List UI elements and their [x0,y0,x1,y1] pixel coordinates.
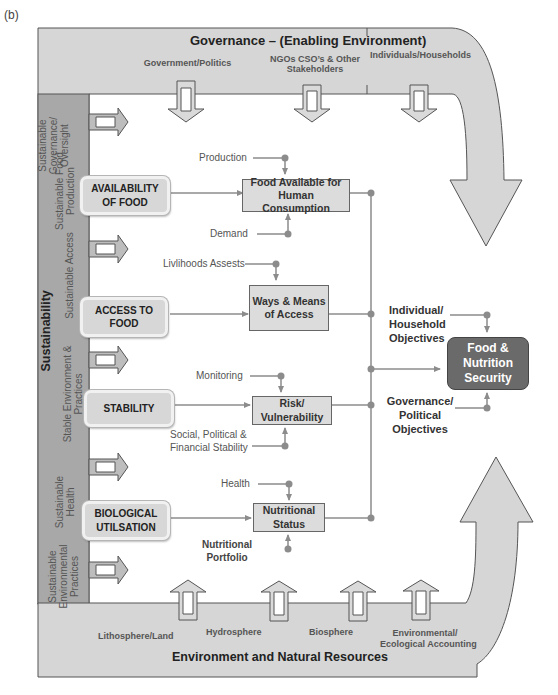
outcome-label: Human Consumption [243,189,349,215]
pillar-label: FOOD [95,317,153,331]
goal-label: Food & [463,341,513,356]
outcome-label: of Access [252,308,325,321]
label-line: Social, Political & [170,428,248,441]
input-production: Production [199,152,247,164]
goal-label: Nutrition [463,356,513,371]
pillar-label: BIOLOGICAL [95,507,158,521]
sidebar-section-health: Sustainable Health [54,467,76,537]
pillar-label: OF FOOD [91,196,158,210]
pillar-access[interactable]: ACCESS TOFOOD [80,297,168,337]
sidebar-section-access: Sustainable Access [64,231,75,321]
pillar-biological-utilisation[interactable]: BIOLOGICALUTILSATION [82,501,170,540]
goal-food-nutrition-security[interactable]: Food &NutritionSecurity [447,337,529,390]
environment-title: Environment and Natural Resources [150,650,410,664]
label-line: Governance/ [386,395,454,409]
connectors [170,158,487,549]
governance-title: Governance – (Enabling Environment) [190,34,390,49]
label-line: Objectives [389,332,446,346]
label-line: Health [65,467,76,537]
input-health: Health [221,478,250,490]
pillar-label: AVAILABILITY [91,182,158,196]
label-line: Environmental/ [380,628,470,639]
objective-individual-household: Individual/ Household Objectives [389,304,446,345]
outcome-label: Nutritional [263,504,316,517]
outcome-label: Ways & Means [252,295,325,308]
outcome-label: Food Available for [243,176,349,189]
input-livelihoods-assets: Livlihoods Assests [163,258,245,270]
sidebar-section-stable-environment: Stable Environment & Practices [62,334,84,454]
figure-label: (b) [4,9,19,23]
environment-item-biosphere: Biosphere [309,627,353,637]
label-line: Individual/ [389,304,446,318]
label-line: Sustainable [47,537,58,617]
outcome-label: Vulnerability [261,411,324,424]
environment-item-hydrosphere: Hydrosphere [206,627,262,637]
ngo-line-1: NGOs CSO’s & Other [255,54,375,64]
pillar-label: STABILITY [104,402,155,416]
label-line: Financial Stability [170,441,248,454]
label-line: Sustainable [37,114,48,178]
label-line: Ecological Accounting [380,639,470,650]
label-line: Practices [69,537,80,617]
label-line: Nutritional [197,538,257,551]
pillar-label: UTILSATION [95,521,158,535]
label-line: Production [65,146,76,236]
label-line: Stable Environment & [62,334,73,454]
label-line: Practices [73,334,84,454]
governance-item-ngos: NGOs CSO’s & Other Stakeholders [255,54,375,75]
outcome-label: Status [263,518,316,531]
input-demand: Demand [210,228,248,240]
sidebar-section-food-production: Sustainable Food Production [54,146,76,236]
ngo-line-2: Stakeholders [255,64,375,74]
pillar-label: ACCESS TO [95,304,153,318]
objective-governance-political: Governance/ Political Objectives [386,395,454,436]
label-line: Portfolio [197,551,257,564]
governance-item-individuals: Individuals/Households [370,50,470,60]
label-line: Political [386,409,454,423]
outcome-food-available[interactable]: Food Available forHuman Consumption [242,179,350,212]
environment-item-lithosphere: Lithosphere/Land [98,631,174,641]
outcome-risk-vulnerability[interactable]: Risk/Vulnerability [252,396,332,425]
governance-item-government: Government/Politics [120,58,255,68]
outcome-nutritional-status[interactable]: NutritionalStatus [253,503,325,532]
input-monitoring: Monitoring [196,370,243,382]
input-social-political-financial: Social, Political & Financial Stability [170,428,248,454]
pillar-availability[interactable]: AVAILABILITYOF FOOD [80,176,170,215]
goal-label: Security [463,371,513,386]
label-line: Sustainable [54,467,65,537]
label-line: Sustainable Access [64,231,75,321]
outcome-ways-means-access[interactable]: Ways & Meansof Access [249,285,329,331]
label-line: Sustainable Food [54,146,65,236]
label-line: Objectives [386,423,454,437]
environment-item-ecological-accounting: Environmental/ Ecological Accounting [380,628,470,650]
sustainability-title: Sustainability [40,276,54,386]
label-line: Environmental [58,537,69,617]
outcome-label: Risk/ [261,397,324,410]
label-line: Household [389,318,446,332]
pillar-stability[interactable]: STABILITY [84,390,174,427]
input-nutritional-portfolio: Nutritional Portfolio [197,538,257,564]
sidebar-section-environmental-practices: Sustainable Environmental Practices [47,537,80,617]
